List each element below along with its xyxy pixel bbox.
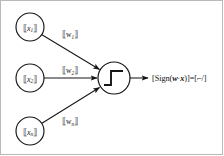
edge-group <box>42 35 100 124</box>
perceptron-diagram: ⟦x1⟧ ⟦x2⟧ ⟦xn⟧ ⟦w1⟧ ⟦w2⟧ ⟦wn⟧ [Sign(w·x)… <box>0 0 224 156</box>
input-node-2-label: ⟦x2⟧ <box>23 74 37 85</box>
weight-label-n: ⟦wn⟧ <box>62 116 78 127</box>
edge-input-1 <box>42 35 100 70</box>
weight-label-1: ⟦w1⟧ <box>62 29 78 40</box>
weight-label-2: ⟦w2⟧ <box>62 65 78 76</box>
input-node-1-label: ⟦x1⟧ <box>23 23 37 34</box>
figure-canvas: ⟦x1⟧ ⟦x2⟧ ⟦xn⟧ ⟦w1⟧ ⟦w2⟧ ⟦wn⟧ [Sign(w·x)… <box>0 0 224 156</box>
output-label: [Sign(w·x)]=[⌐/] <box>152 74 207 83</box>
activation-node-circle <box>98 62 130 94</box>
input-node-n-label: ⟦xn⟧ <box>23 127 37 138</box>
